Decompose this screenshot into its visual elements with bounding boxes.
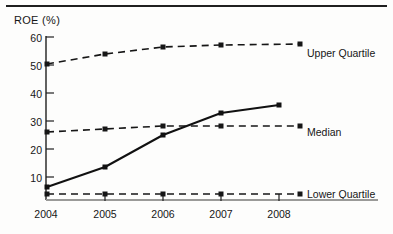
- axes-group: [46, 36, 378, 200]
- series-upper-quartile-line: [47, 44, 300, 64]
- chart-plot-area: [0, 0, 393, 234]
- series-lower-quartile: [45, 192, 303, 197]
- y-tick-marks-group: [46, 37, 54, 177]
- series-upper-quartile: [45, 42, 303, 67]
- series-company-line: [47, 105, 279, 187]
- chart-figure: ROE (%) 60 50 40 30 20 10 2004 2005 2006…: [0, 0, 393, 234]
- series-median-markers: [45, 124, 303, 135]
- series-median: [45, 124, 303, 135]
- series-company: [45, 103, 282, 190]
